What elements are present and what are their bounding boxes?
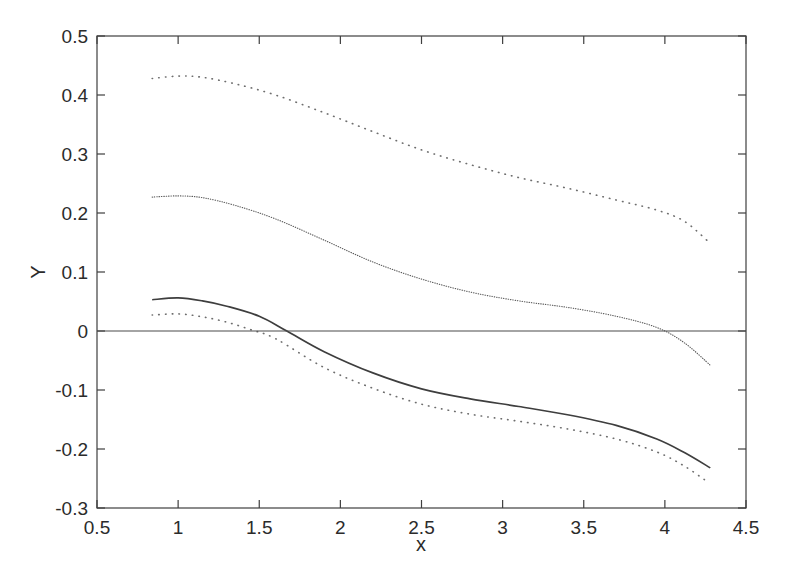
- y-tick-label: -0.2: [55, 439, 88, 460]
- curve-upper-dotted-curve: [152, 76, 709, 242]
- curves: [97, 76, 746, 483]
- curve-lower-dotted-curve: [152, 314, 709, 483]
- chart: 0.511.522.533.544.5-0.3-0.2-0.100.10.20.…: [0, 0, 792, 583]
- y-tick-label: 0.3: [62, 144, 88, 165]
- tick-labels: 0.511.522.533.544.5-0.3-0.2-0.100.10.20.…: [55, 26, 759, 539]
- axes-box: [97, 36, 746, 508]
- x-tick-label: 0.5: [84, 517, 110, 538]
- x-tick-label: 3.5: [571, 517, 597, 538]
- y-tick-label: -0.1: [55, 380, 88, 401]
- y-tick-label: -0.3: [55, 498, 88, 519]
- x-tick-label: 1: [173, 517, 184, 538]
- curve-middle-fine-dotted-curve: [152, 196, 710, 365]
- x-tick-label: 2: [335, 517, 346, 538]
- y-tick-label: 0.4: [62, 85, 89, 106]
- x-axis-label: x: [416, 533, 426, 555]
- y-tick-label: 0.1: [62, 262, 88, 283]
- plot-border: [97, 36, 746, 508]
- x-tick-label: 4.5: [733, 517, 759, 538]
- x-tick-label: 3: [497, 517, 508, 538]
- axis-ticks: [97, 36, 746, 508]
- y-tick-label: 0.2: [62, 203, 88, 224]
- figure: 0.511.522.533.544.5-0.3-0.2-0.100.10.20.…: [0, 0, 792, 583]
- x-tick-label: 4: [660, 517, 671, 538]
- y-tick-label: 0: [77, 321, 88, 342]
- y-tick-label: 0.5: [62, 26, 88, 47]
- x-tick-label: 1.5: [246, 517, 272, 538]
- y-axis-label: Y: [27, 265, 49, 278]
